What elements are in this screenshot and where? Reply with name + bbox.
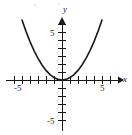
x-tick-label-negative-5: -5	[14, 84, 22, 93]
y-axis-arrowhead	[58, 17, 65, 24]
parabola-graph-figure: y x -5 5 5 -5	[0, 0, 132, 135]
scan-artifact-speck	[58, 3, 60, 5]
y-tick-label-positive-5: 5	[50, 29, 55, 38]
scan-artifact-speck	[34, 4, 36, 6]
y-tick-label-negative-5: -5	[47, 117, 55, 126]
plot-canvas	[0, 0, 132, 135]
scan-artifact-speck	[60, 6, 61, 7]
axes-group	[6, 20, 118, 131]
x-tick-label-positive-5: 5	[100, 84, 105, 93]
x-axis-label: x	[123, 75, 127, 84]
y-axis-label: y	[63, 5, 67, 14]
scan-artifact-speck	[37, 6, 38, 7]
